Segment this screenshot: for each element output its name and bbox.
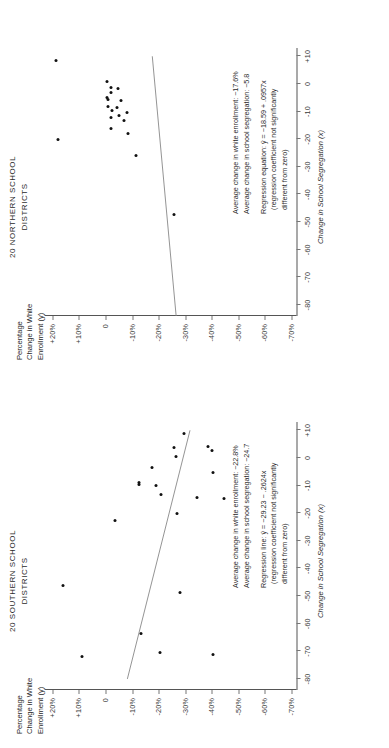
y-tick bbox=[78, 316, 79, 320]
y-tick-label: -20% bbox=[153, 698, 162, 732]
y-tick bbox=[211, 316, 212, 320]
data-point bbox=[159, 493, 162, 496]
data-point bbox=[106, 105, 109, 108]
y-tick bbox=[291, 316, 292, 320]
data-point bbox=[115, 106, 118, 109]
data-point bbox=[158, 651, 161, 654]
y-tick-label: -20% bbox=[153, 324, 162, 358]
y-tick-label: -30% bbox=[180, 324, 189, 358]
data-point bbox=[178, 591, 181, 594]
x-tick-label: -30 bbox=[302, 156, 311, 178]
data-point bbox=[119, 99, 122, 102]
data-point bbox=[116, 87, 119, 90]
y-tick-label: -60% bbox=[259, 698, 268, 732]
y-tick-label: +10% bbox=[73, 324, 82, 358]
y-tick bbox=[238, 690, 239, 694]
x-tick bbox=[296, 512, 300, 513]
x-tick bbox=[296, 304, 300, 305]
x-tick-label: -80 bbox=[302, 668, 311, 690]
x-tick-label: 0 bbox=[302, 447, 311, 469]
x-tick bbox=[296, 595, 300, 596]
y-tick bbox=[158, 316, 159, 320]
y-tick bbox=[105, 316, 106, 320]
data-point bbox=[150, 466, 153, 469]
y-tick-label: -10% bbox=[127, 324, 136, 358]
data-point bbox=[126, 132, 129, 135]
data-point bbox=[210, 449, 213, 452]
regression-line bbox=[0, 374, 389, 748]
x-tick-label: -30 bbox=[302, 530, 311, 552]
annotation-regression-equation: Regression equation: ŷ = −18.59 + .0957x bbox=[258, 34, 269, 214]
panel-southern-school-districts: -80-70-60-50-40-30-20-100+10+20%+10%0-10… bbox=[0, 374, 389, 748]
annotation-avg-segregation: Average change in school segregation: −5… bbox=[241, 34, 252, 214]
x-tick-label: -60 bbox=[302, 613, 311, 635]
y-tick-label: -50% bbox=[233, 698, 242, 732]
y-tick-label: -10% bbox=[127, 698, 136, 732]
x-tick-label: -70 bbox=[302, 640, 311, 662]
panel-title: 20 SOUTHERN SCHOOL DISTRICTS bbox=[6, 506, 29, 656]
data-point bbox=[154, 484, 157, 487]
y-tick-label: +10% bbox=[73, 698, 82, 732]
x-tick-label: -10 bbox=[302, 475, 311, 497]
y-tick bbox=[238, 316, 239, 320]
x-tick bbox=[296, 83, 300, 84]
y-tick bbox=[132, 316, 133, 320]
y-tick bbox=[52, 690, 53, 694]
y-tick bbox=[211, 690, 212, 694]
data-point bbox=[117, 114, 120, 117]
regression-line bbox=[0, 0, 389, 374]
x-tick-label: -40 bbox=[302, 183, 311, 205]
data-point bbox=[206, 445, 209, 448]
y-tick-label: -70% bbox=[286, 324, 295, 358]
y-tick bbox=[105, 690, 106, 694]
y-axis-line bbox=[44, 315, 296, 316]
x-tick bbox=[296, 249, 300, 250]
data-point bbox=[122, 119, 125, 122]
panel-title: 20 NORTHERN SCHOOL DISTRICTS bbox=[6, 132, 29, 282]
y-tick bbox=[158, 690, 159, 694]
annotation-block: Average change in white enrollment: −17.… bbox=[230, 34, 290, 214]
data-point bbox=[222, 497, 225, 500]
annotation-avg-enrollment: Average change in white enrollment: −22.… bbox=[230, 408, 241, 588]
figure-page: -80-70-60-50-40-30-20-100+10+20%+10%0-10… bbox=[0, 0, 389, 748]
data-point bbox=[172, 213, 175, 216]
annotation-block: Average change in white enrollment: −22.… bbox=[230, 408, 290, 588]
annotation-avg-segregation: Average change in school segregation: −2… bbox=[241, 408, 252, 588]
data-point bbox=[175, 512, 178, 515]
y-tick bbox=[132, 690, 133, 694]
y-tick-label: +20% bbox=[47, 698, 56, 732]
x-tick bbox=[296, 193, 300, 194]
data-point bbox=[80, 655, 83, 658]
x-tick-label: +10 bbox=[302, 45, 311, 67]
x-tick bbox=[296, 540, 300, 541]
y-tick bbox=[185, 690, 186, 694]
x-tick bbox=[296, 457, 300, 458]
data-point bbox=[139, 632, 142, 635]
y-axis-title: Percentage Change in White Enrollment (y… bbox=[14, 678, 45, 734]
data-point bbox=[105, 80, 108, 83]
annotation-regression-equation: Regression line: ŷ = −29.23 − .2624x bbox=[258, 408, 269, 588]
data-point bbox=[110, 109, 113, 112]
data-point bbox=[54, 59, 57, 62]
y-tick-label: +20% bbox=[47, 324, 56, 358]
x-tick bbox=[296, 650, 300, 651]
x-tick-label: -10 bbox=[302, 101, 311, 123]
x-tick-label: -40 bbox=[302, 557, 311, 579]
x-tick bbox=[296, 678, 300, 679]
x-tick bbox=[296, 221, 300, 222]
data-point bbox=[113, 519, 116, 522]
y-tick bbox=[52, 316, 53, 320]
scatter-plot-southern: -80-70-60-50-40-30-20-100+10+20%+10%0-10… bbox=[0, 374, 389, 748]
data-point bbox=[125, 111, 128, 114]
annotation-avg-enrollment: Average change in white enrollment: −17.… bbox=[230, 34, 241, 214]
y-tick-label: -40% bbox=[206, 698, 215, 732]
data-point bbox=[182, 432, 185, 435]
data-point bbox=[134, 154, 137, 157]
y-tick-label: -70% bbox=[286, 698, 295, 732]
x-tick-label: -70 bbox=[302, 266, 311, 288]
y-tick-label: -40% bbox=[206, 324, 215, 358]
x-tick-label: 0 bbox=[302, 73, 311, 95]
x-tick bbox=[296, 276, 300, 277]
y-tick bbox=[291, 690, 292, 694]
x-tick-label: -20 bbox=[302, 128, 311, 150]
